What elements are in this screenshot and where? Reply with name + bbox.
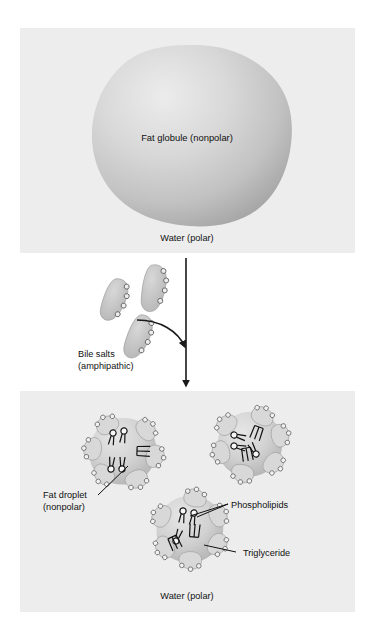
bottom-panel: Fat droplet (nonpolar) Phospholipids Tri… xyxy=(20,391,355,612)
triglyceride-label: Triglyceride xyxy=(243,548,290,558)
middle-panel: Bile salts (amphipathic) xyxy=(78,258,186,386)
water-label-bottom: Water (polar) xyxy=(160,591,213,601)
bile-salts-label-line1: Bile salts xyxy=(78,349,115,359)
phospholipids-label: Phospholipids xyxy=(231,500,289,510)
water-label-top: Water (polar) xyxy=(160,233,213,243)
fat-droplet-label-line2: (nonpolar) xyxy=(43,502,85,512)
bile-salts-label-line2: (amphipathic) xyxy=(78,361,134,371)
fat-emulsification-figure: Fat globule (nonpolar) Water (polar) xyxy=(0,0,373,630)
fat-droplet-label-line1: Fat droplet xyxy=(43,490,87,500)
top-panel: Fat globule (nonpolar) Water (polar) xyxy=(20,28,355,253)
bile-salt-molecule xyxy=(139,263,170,313)
fat-globule-label: Fat globule (nonpolar) xyxy=(141,132,233,143)
bile-salt-molecule xyxy=(97,276,133,325)
